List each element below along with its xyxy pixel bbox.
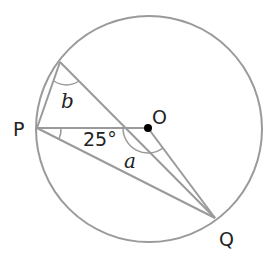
angle-25-arc	[59, 128, 61, 139]
center-point	[144, 124, 152, 132]
circle-diagram: P O Q 25° a b	[0, 0, 274, 254]
radius-o-q	[148, 128, 215, 218]
label-angle-b: b	[61, 89, 74, 113]
label-angle-25: 25°	[83, 128, 117, 150]
label-q: Q	[219, 228, 234, 250]
angle-b-arc	[54, 81, 79, 85]
label-p: P	[13, 118, 24, 140]
label-o: O	[152, 106, 167, 128]
label-angle-a: a	[124, 149, 136, 173]
